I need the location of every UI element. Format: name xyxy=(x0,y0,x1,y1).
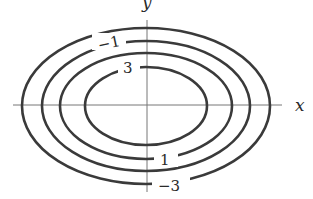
contour-label-3: 3 xyxy=(123,59,133,77)
contour-label-1: 1 xyxy=(160,151,170,169)
contour-label-neg1: −1 xyxy=(96,32,121,54)
contour-label-neg3: −3 xyxy=(158,177,180,195)
contour-level-3 xyxy=(85,67,207,145)
y-axis-label: y xyxy=(141,0,152,12)
contour-plot: 3 1 −1 −3 x y xyxy=(0,0,313,199)
x-axis-label: x xyxy=(295,95,305,115)
contour-level-neg1 xyxy=(42,41,250,171)
